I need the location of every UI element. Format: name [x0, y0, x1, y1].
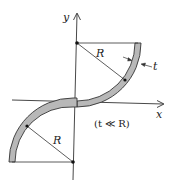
- upper-arc-strip: [77, 43, 141, 107]
- lower-radius-label: R: [52, 134, 61, 147]
- upper-center-dot: [75, 41, 79, 45]
- x-axis-label: x: [156, 108, 163, 121]
- s-curve-diagram: y x R R t (t ≪ R): [0, 0, 172, 185]
- upper-radius-label: R: [95, 47, 104, 60]
- y-axis: [73, 13, 81, 180]
- thickness-label: t: [153, 60, 158, 73]
- y-axis-label: y: [62, 11, 70, 24]
- condition-note: (t ≪ R): [94, 118, 130, 129]
- upper-arc-point-dot: [123, 78, 126, 81]
- thickness-arrow-left-icon: [128, 58, 133, 62]
- lower-center-dot: [71, 160, 75, 164]
- lower-arc-strip: [9, 98, 77, 162]
- thickness-arrow-right-icon: [141, 63, 146, 67]
- lower-arc-point-dot: [25, 124, 28, 127]
